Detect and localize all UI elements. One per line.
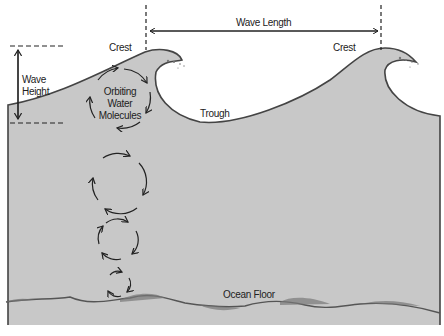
wave-length-label: Wave Length bbox=[236, 17, 291, 28]
ocean-floor-label: Ocean Floor bbox=[223, 289, 275, 300]
wave-diagram bbox=[0, 0, 444, 336]
wave-height-label-2: Height bbox=[22, 86, 49, 97]
crest-left-label: Crest bbox=[109, 42, 131, 53]
orbiting-label-2: Water bbox=[90, 98, 150, 109]
trough-label: Trough bbox=[200, 108, 230, 119]
wave-height-label-1: Wave bbox=[22, 74, 46, 85]
orbiting-label-1: Orbiting bbox=[90, 86, 150, 97]
crest-right-label: Crest bbox=[333, 42, 355, 53]
orbiting-label-3: Molecules bbox=[90, 110, 150, 121]
